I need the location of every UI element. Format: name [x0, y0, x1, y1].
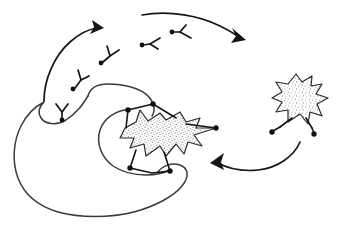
figure-root	[0, 0, 341, 231]
right-stippled-blob	[269, 74, 328, 137]
y-fragment-lower-left	[71, 70, 89, 91]
node-center-right-tip	[213, 125, 218, 130]
y-fragment-horizontal-right	[170, 25, 191, 38]
center-stippled-blob	[120, 110, 216, 156]
y-fragment-horizontal-left	[140, 38, 160, 49]
y-fragment-middle	[99, 46, 119, 65]
arrow-bottom-leftward	[210, 142, 300, 170]
node-center-upper-left	[125, 107, 130, 112]
node-center-lower-right	[167, 168, 172, 173]
node-center-upper-right	[150, 101, 155, 106]
figure-canvas	[0, 0, 341, 231]
node-center-lower-left	[127, 165, 132, 170]
